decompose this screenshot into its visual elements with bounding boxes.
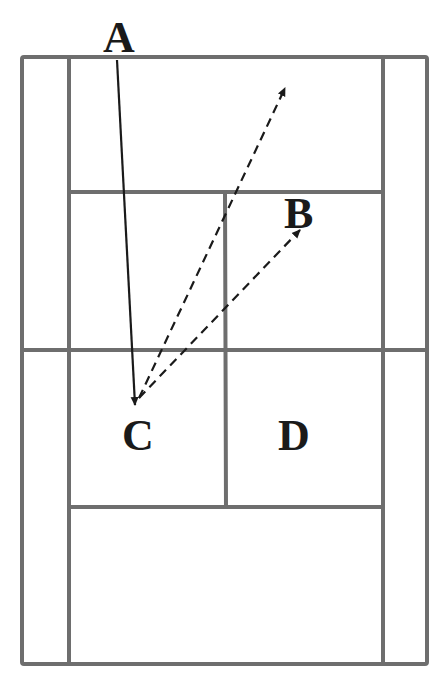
center-line — [225, 192, 226, 507]
court-lines — [22, 57, 427, 664]
shot-arrows — [117, 60, 300, 405]
label-c: C — [122, 414, 154, 458]
label-b: B — [284, 192, 313, 236]
solid-arrow-a-to-c — [117, 60, 135, 405]
badminton-court-diagram — [0, 0, 445, 679]
label-a: A — [103, 16, 135, 60]
label-d: D — [278, 414, 310, 458]
dashed-arrow-c-to-b — [139, 230, 300, 398]
